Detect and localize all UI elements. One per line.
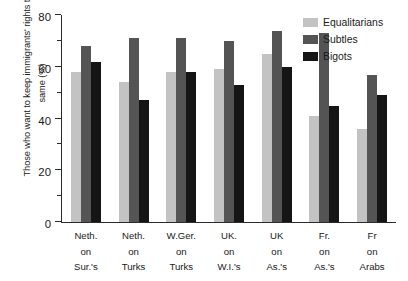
bar-chart-figure: Those who want to keep immigrants' right…: [0, 0, 408, 281]
bar: [176, 38, 186, 222]
y-tick-label: 80: [9, 11, 51, 23]
legend-swatch: [303, 52, 318, 61]
bar: [214, 69, 224, 222]
y-tick-minor: [57, 92, 61, 93]
bar: [224, 41, 234, 222]
bar: [377, 95, 387, 222]
y-tick-minor: [57, 195, 61, 196]
x-category-label: FronArabs: [342, 228, 402, 275]
bar: [71, 72, 81, 222]
x-category-label-line: Fr: [342, 228, 402, 244]
legend-item: Bigots: [303, 48, 407, 65]
y-tick-major: [55, 169, 61, 170]
bar-group: [71, 15, 101, 222]
legend: EqualitariansSubtlesBigots: [303, 14, 407, 65]
y-tick-major: [55, 221, 61, 222]
y-tick-label: 60: [9, 63, 51, 75]
y-tick-major: [55, 66, 61, 67]
bar-group: [214, 15, 244, 222]
bar: [329, 106, 339, 222]
bar-group: [262, 15, 292, 222]
bar: [262, 54, 272, 222]
y-tick-minor: [57, 40, 61, 41]
bar: [357, 129, 367, 222]
y-tick-major: [55, 14, 61, 15]
bar: [309, 116, 319, 222]
y-tick-label: 40: [9, 115, 51, 127]
bar-group: [166, 15, 196, 222]
y-tick-minor: [57, 143, 61, 144]
x-category-label-line: Arabs: [342, 259, 402, 275]
bar: [166, 72, 176, 222]
bar: [186, 72, 196, 222]
y-tick-label: 20: [9, 166, 51, 178]
bar: [81, 46, 91, 222]
legend-item: Equalitarians: [303, 14, 407, 31]
legend-label: Bigots: [323, 51, 352, 62]
bar: [129, 38, 139, 222]
x-axis-category-labels: Neth.onSur.'sNeth.onTurksW.Ger.onTurksUK…: [62, 228, 396, 280]
bar: [282, 67, 292, 222]
bar-group: [119, 15, 149, 222]
bar: [272, 31, 282, 222]
y-tick-label: 0: [9, 218, 51, 230]
legend-swatch: [303, 18, 318, 27]
legend-item: Subtles: [303, 31, 407, 48]
legend-swatch: [303, 35, 318, 44]
bar: [119, 82, 129, 222]
x-category-label-line: on: [342, 244, 402, 260]
bar: [234, 85, 244, 222]
bar: [139, 100, 149, 222]
legend-label: Subtles: [323, 34, 358, 45]
legend-label: Equalitarians: [323, 17, 383, 28]
bar: [91, 62, 101, 222]
y-axis-tick-labels: 020406080: [9, 15, 51, 222]
x-axis-line: [61, 222, 396, 223]
y-tick-major: [55, 118, 61, 119]
bar: [367, 75, 377, 222]
